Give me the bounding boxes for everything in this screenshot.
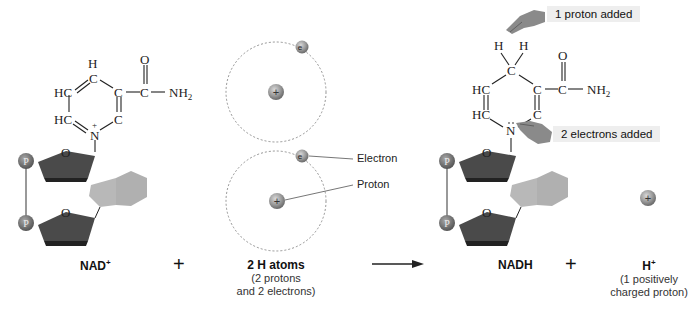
nadh-atom-h2: H [519, 38, 528, 53]
nadh-atom-c-right: C [533, 82, 542, 97]
nadh-atom-c-top: C [507, 63, 516, 78]
nad-atom-hc-upper: HC [54, 85, 72, 100]
pointing-hand-icon [506, 10, 545, 34]
nad-n-charge: + [92, 120, 97, 130]
svg-text:P: P [444, 218, 450, 229]
nadh-atom-c-lower: C [533, 107, 542, 122]
nadh-atom-o-amide: O [558, 48, 567, 63]
h-atoms-label: 2 H atoms [236, 258, 316, 272]
h-ion-label: H+ [606, 258, 692, 273]
nad-ribose-upper-o: O [61, 145, 70, 160]
proton-leader-line [285, 185, 353, 200]
nad-plus-label: NAD+ [80, 258, 111, 273]
nad-ring-bonds [69, 65, 165, 152]
svg-text:P: P [23, 156, 29, 167]
h-ion-caption: H+ (1 positively charged proton) [606, 258, 692, 299]
svg-text:e: e [298, 152, 303, 161]
callout-electrons-added: 2 electrons added [553, 126, 660, 142]
nadh-atom-n: N [506, 123, 516, 138]
svg-text:+: + [645, 192, 651, 204]
nadh-adenine-pentagon [510, 178, 537, 207]
nadh-nh2: NH2 [587, 82, 610, 99]
nad-plus-molecule: H C HC HC C C N + C O NH2 O O P P [18, 52, 192, 246]
nad-atom-c-top: C [89, 71, 98, 86]
nadh-label: NADH [498, 258, 533, 272]
nadh-atom-h1: H [494, 38, 503, 53]
nad-adenine-hexagon [116, 171, 147, 206]
nadh-atom-c-amide: C [558, 82, 567, 97]
nad-atom-c-right: C [114, 85, 123, 100]
reaction-arrow [372, 260, 424, 268]
nad-atom-o-amide: O [140, 52, 149, 67]
h-atoms-caption: 2 H atoms (2 protons and 2 electrons) [236, 258, 316, 298]
svg-text:+: + [274, 195, 280, 207]
nad-adenine-pentagon [89, 178, 116, 207]
nad-atom-n: N [90, 128, 100, 143]
nad-atom-hc-lower: HC [54, 112, 72, 127]
nad-atom-c-lower: C [114, 112, 123, 127]
nadh-ribose-lower-o: O [482, 205, 491, 220]
electron-pair-dot [508, 122, 510, 124]
nadh-ribose-upper-o: O [482, 145, 491, 160]
svg-text:P: P [444, 156, 450, 167]
proton-label: Proton [357, 178, 389, 190]
pointing-hand-icon [516, 121, 552, 144]
svg-text:+: + [273, 86, 279, 98]
nad-nh2: NH2 [169, 85, 192, 102]
nadh-adenine-hexagon [537, 171, 568, 206]
free-proton: + [640, 190, 656, 206]
plus-sign-2: + [565, 253, 577, 276]
nad-ribose-lower-o: O [61, 205, 70, 220]
nad-atom-c-amide: C [140, 85, 149, 100]
callout-proton-added: 1 proton added [547, 6, 640, 22]
electron-leader-line [309, 156, 353, 159]
nadh-atom-hc-lower: HC [472, 107, 490, 122]
svg-text:P: P [23, 218, 29, 229]
svg-text:e: e [298, 43, 303, 52]
plus-sign-1: + [173, 253, 185, 276]
hydrogen-atoms: + e + e [226, 41, 353, 252]
nad-atom-h: H [88, 56, 97, 71]
electron-label: Electron [357, 152, 397, 164]
nadh-atom-hc-upper: HC [472, 82, 490, 97]
electron-pair-dot [512, 122, 514, 124]
